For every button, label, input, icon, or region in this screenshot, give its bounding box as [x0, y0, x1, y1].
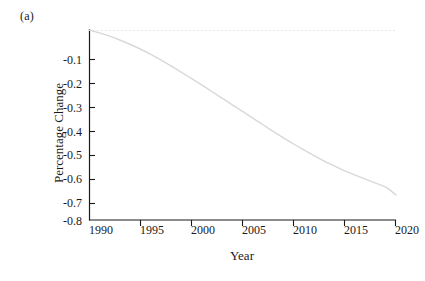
data-series-percentage-change — [89, 30, 396, 195]
x-axis-ticks — [141, 220, 396, 226]
y-axis-ticks — [90, 60, 96, 204]
figure-panel-a: (a) Percentage Change Year -0.1 -0.2 -0.… — [0, 0, 425, 281]
plot-area — [0, 0, 425, 281]
